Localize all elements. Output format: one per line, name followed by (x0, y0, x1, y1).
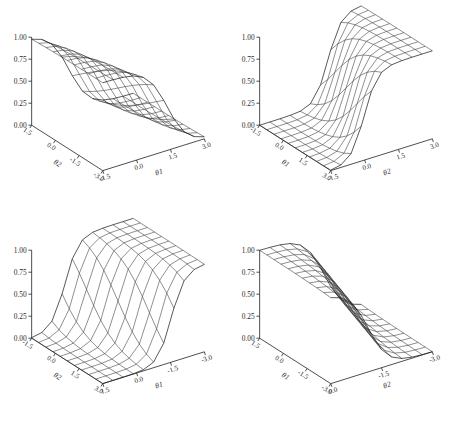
wireframe-mesh (32, 39, 205, 137)
z-tick-label: 0.75 (242, 268, 255, 277)
mesh-line-v (300, 91, 371, 121)
mesh-line-v (321, 268, 392, 357)
x-axis-tick-label: 0.0 (273, 141, 285, 153)
x-axis-axis-title: θ2 (52, 157, 63, 169)
x-axis-tick-label: 1.5 (297, 156, 309, 168)
x-axis-tick-label: -1.5 (21, 338, 35, 351)
mesh-line-u (39, 223, 141, 342)
z-tick-label: 0.25 (14, 312, 27, 321)
y-axis-axis-title: θ2 (382, 166, 392, 177)
surface-panel-top-right: 0.000.250.500.751.00Probability-1.50.01.… (228, 0, 456, 212)
mesh-line-u (267, 249, 369, 310)
mesh-line-u (295, 270, 397, 331)
z-tick-label: 0.50 (14, 290, 27, 299)
mesh-line-u (67, 241, 169, 361)
mesh-line-v (113, 225, 184, 281)
x-axis-tick-label: 1.5 (69, 369, 81, 381)
mesh-line-u (317, 42, 419, 162)
x-axis-tick-label: 0.0 (45, 141, 57, 153)
y-axis-tick-label: 0.0 (328, 385, 339, 395)
y-axis-tick-label: -3.0 (200, 353, 213, 364)
floor-axis-line-0 (331, 139, 433, 171)
z-tick-label: 0.25 (242, 312, 255, 321)
y-axis-axis-title: θ1 (154, 166, 164, 177)
mesh-line-u (331, 51, 433, 170)
mesh-line-u (281, 19, 383, 139)
y-axis-tick-label: 1.5 (395, 151, 406, 161)
z-tick-label: 1.00 (242, 33, 255, 42)
x-axis-tick-label: -1.5 (249, 125, 263, 138)
surface-panel-bottom-right: 0.000.250.500.751.00Probability1.50.0-1.… (228, 213, 456, 425)
mesh-line-u (46, 227, 148, 347)
y-axis-tick-label: 1.5 (100, 385, 111, 395)
mesh-line-u (60, 237, 162, 357)
z-tick-label: 0.50 (242, 290, 255, 299)
floor-axis-line-1 (260, 338, 331, 383)
mesh-line-v (103, 228, 174, 308)
surface-panel-bottom-left: 0.000.250.500.751.00Probability-1.50.01.… (0, 213, 228, 425)
wireframe-mesh (32, 218, 205, 383)
mesh-line-u (274, 15, 376, 135)
z-tick-label: 0.25 (242, 99, 255, 108)
axes-group (28, 37, 205, 174)
surface-panel-top-left: 0.000.250.500.751.00Probability1.50.0-1.… (0, 0, 228, 212)
mesh-line-v (133, 93, 204, 137)
mesh-line-v (62, 294, 133, 374)
mesh-line-u (260, 6, 362, 125)
y-axis-tick-label: 3.0 (429, 141, 440, 151)
mesh-line-v (300, 245, 371, 334)
y-axis-tick-label: 1.5 (167, 151, 178, 161)
y-axis-tick-label: -3.0 (428, 353, 441, 364)
x-axis-tick-label: 0.0 (45, 354, 57, 366)
y-axis-axis-title: θ1 (154, 379, 164, 390)
mesh-line-v (32, 39, 103, 83)
surface-plot-svg: 0.000.250.500.751.00Probability1.50.0-1.… (0, 0, 228, 212)
mesh-line-v (331, 39, 402, 61)
axes-group (256, 250, 433, 387)
mesh-line-u (96, 260, 198, 379)
z-tick-label: 0.75 (242, 55, 255, 64)
mesh-line-v (123, 222, 194, 270)
mesh-line-v (321, 55, 392, 85)
surface-plot-svg: 0.000.250.500.751.00Probability1.50.0-1.… (228, 213, 456, 425)
surface-plot-figure: 0.000.250.500.751.00Probability1.50.0-1.… (0, 0, 456, 425)
wireframe-mesh (260, 244, 433, 359)
mesh-line-u (74, 246, 176, 366)
z-tick-label: 1.00 (14, 246, 27, 255)
x-axis-tick-label: 0.0 (273, 354, 285, 366)
x-axis-tick-label: -1.5 (68, 155, 82, 168)
z-tick-label: 0.75 (14, 268, 27, 277)
floor-axis-line-0 (103, 352, 205, 384)
z-tick-label: 1.00 (242, 246, 255, 255)
wireframe-mesh (260, 6, 433, 170)
floor-axis-line-0 (103, 139, 205, 171)
mesh-line-u (309, 37, 411, 157)
x-axis-axis-title: θ2 (52, 370, 63, 382)
surface-plot-svg: 0.000.250.500.751.00Probability-1.50.01.… (0, 213, 228, 425)
mesh-line-v (290, 115, 361, 137)
x-axis-axis-title: θ1 (280, 157, 291, 169)
z-tick-label: 0.50 (242, 77, 255, 86)
floor-axis-line-1 (32, 125, 103, 170)
mesh-line-v (52, 44, 123, 77)
y-axis-axis-title: θ2 (382, 379, 392, 390)
mesh-line-v (290, 244, 361, 316)
mesh-line-u (295, 28, 397, 148)
mesh-line-u (103, 264, 205, 383)
mesh-line-u (324, 292, 426, 353)
mesh-line-v (331, 287, 402, 359)
y-axis-tick-label: 3.0 (201, 141, 212, 151)
y-axis-tick-label: -1.5 (166, 364, 179, 375)
z-tick-label: 0.25 (14, 99, 27, 108)
x-axis-axis-title: θ1 (280, 370, 291, 382)
mesh-line-u (32, 218, 134, 337)
y-axis-tick-label: 0.0 (362, 162, 373, 172)
surface-plot-svg: 0.000.250.500.751.00Probability-1.50.01.… (228, 0, 456, 212)
x-axis-tick-label: -1.5 (296, 368, 310, 381)
z-tick-label: 0.50 (14, 77, 27, 86)
z-tick-label: 1.00 (14, 33, 27, 42)
y-axis-tick-label: 0.0 (134, 162, 145, 172)
mesh-line-u (89, 255, 191, 375)
z-tick-label: 0.75 (14, 55, 27, 64)
mesh-line-v (52, 321, 123, 377)
